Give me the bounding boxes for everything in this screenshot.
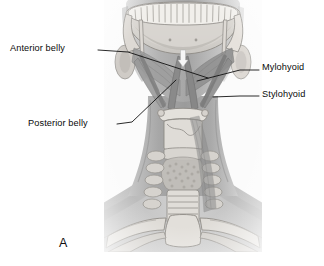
- anatomy-illustration-svg: [104, 0, 262, 252]
- label-posterior-belly: Posterior belly: [28, 119, 88, 128]
- panel-letter: A: [59, 237, 67, 250]
- anatomy-figure: Anterior belly Posterior belly Mylohyoid…: [0, 0, 324, 266]
- anatomy-illustration: [104, 0, 262, 252]
- label-stylohyoid: Stylohyoid: [262, 90, 305, 99]
- label-mylohyoid: Mylohyoid: [262, 63, 304, 72]
- plate-vignette: [104, 0, 262, 252]
- label-anterior-belly: Anterior belly: [10, 44, 65, 53]
